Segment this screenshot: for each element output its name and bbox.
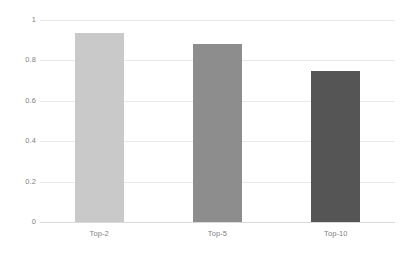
bar-top-2[interactable]: [75, 33, 124, 222]
plot-area: [40, 20, 395, 222]
y-axis-tick-label: 1: [2, 16, 36, 24]
bar-top-10[interactable]: [311, 71, 360, 223]
gridline: [40, 20, 395, 21]
y-axis-tick-label: 0.6: [2, 97, 36, 105]
x-axis-tick-label: Top-5: [158, 229, 276, 238]
y-axis-tick-label: 0.8: [2, 56, 36, 64]
y-axis-tick-label: 0: [2, 218, 36, 226]
x-axis-tick-label: Top-2: [40, 229, 158, 238]
bar-top-5[interactable]: [193, 44, 242, 222]
bar-chart: 10.80.60.40.20 Top-2Top-5Top-10: [0, 0, 410, 256]
y-axis-tick-label: 0.2: [2, 178, 36, 186]
clipped-title-remnant: [0, 0, 410, 5]
x-axis-line: [40, 222, 395, 223]
y-axis-tick-label: 0.4: [2, 137, 36, 145]
x-axis-tick-label: Top-10: [277, 229, 395, 238]
y-axis-tick-labels: 10.80.60.40.20: [0, 20, 36, 222]
